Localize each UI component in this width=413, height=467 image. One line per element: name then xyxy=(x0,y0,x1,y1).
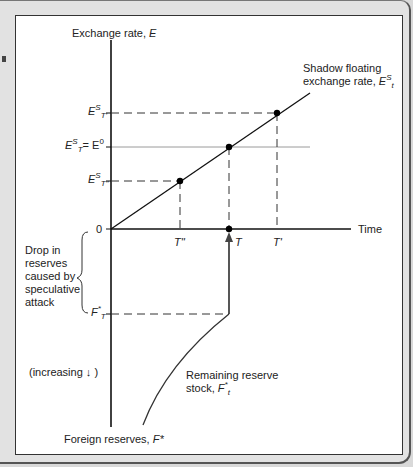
shadow-rate-label: Shadow floating exchange rate, ESt xyxy=(303,62,394,88)
point-t-axis xyxy=(226,226,232,232)
brace-label: Drop in reserves caused by speculative a… xyxy=(25,244,80,309)
increasing-note: (increasing ↓ ) xyxy=(29,366,98,379)
tick-label-e-t-equals-e0: EST= E0 xyxy=(65,139,104,151)
x-tick-t-prime: T' xyxy=(273,236,282,248)
time-axis-label: Time xyxy=(358,223,382,236)
tick-label-e-t-prime: EST' xyxy=(88,105,107,117)
dashed-guides xyxy=(111,113,277,314)
tick-label-f-t: F*T xyxy=(91,306,106,318)
y-axis-label: Exchange rate, E xyxy=(72,27,156,40)
x-tick-t: T xyxy=(235,236,242,248)
remaining-reserve-label: Remaining reserve stock, F*t xyxy=(186,369,278,395)
arrow-up-icon xyxy=(225,232,233,242)
point-t xyxy=(226,144,232,150)
origin-label: 0 xyxy=(96,223,102,236)
point-t-prime xyxy=(274,110,280,116)
x-tick-t-dprime: T'' xyxy=(174,236,185,248)
tick-label-e-t-dprime: EST'' xyxy=(88,173,109,185)
lower-axis-label: Foreign reserves, F* xyxy=(64,433,164,446)
point-t-dprime xyxy=(177,178,183,184)
